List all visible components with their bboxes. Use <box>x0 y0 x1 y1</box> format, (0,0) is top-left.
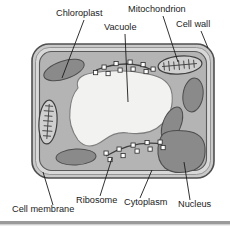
ribosome-bead <box>141 63 145 67</box>
ribosome-bead <box>121 154 125 158</box>
diagram-canvas: Chloroplast Mitochondrion Vacuole Cell w… <box>0 0 230 228</box>
ribosome-bead <box>161 146 165 150</box>
ribosome-bead <box>102 65 106 69</box>
bottom-divider <box>0 221 230 224</box>
bottom-divider-highlight <box>0 224 230 225</box>
ribosome-bead <box>148 147 152 151</box>
label-cell-membrane: Cell membrane <box>12 204 74 214</box>
ribosome-bead <box>104 151 108 155</box>
ribosome-bead <box>128 60 132 64</box>
ribosome-bead <box>158 140 162 144</box>
ribosome-bead <box>117 147 121 151</box>
nucleus-blob <box>158 130 205 172</box>
ribosome-bead <box>114 62 118 66</box>
label-vacuole: Vacuole <box>104 22 137 32</box>
label-cytoplasm: Cytoplasm <box>124 197 168 207</box>
ribosome-bead <box>131 143 135 147</box>
ribosome-bead <box>144 70 148 74</box>
ribosome-bead <box>135 149 139 153</box>
ribosome-bead <box>118 68 122 72</box>
label-chloroplast: Chloroplast <box>56 8 103 18</box>
label-mitochondrion: Mitochondrion <box>128 4 186 14</box>
ribosome-bead <box>145 141 149 145</box>
ribosome-bead <box>151 67 155 71</box>
label-cell-wall: Cell wall <box>176 19 210 29</box>
ribosome-bead <box>94 71 98 75</box>
label-nucleus: Nucleus <box>178 199 212 209</box>
ribosome-bead <box>131 67 135 71</box>
label-ribosome: Ribosome <box>76 195 117 205</box>
plant-cell-diagram: Chloroplast Mitochondrion Vacuole Cell w… <box>0 0 230 228</box>
ribosome-bead <box>106 72 110 76</box>
